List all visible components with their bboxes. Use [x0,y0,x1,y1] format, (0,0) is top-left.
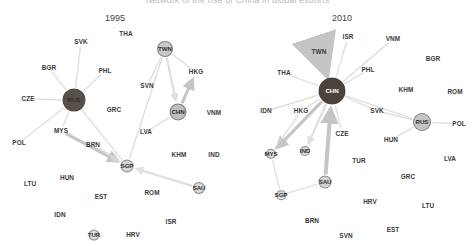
country-label-CZE: CZE [335,131,348,137]
network-node-SAU[interactable]: SAU [193,182,205,194]
edge-RUS-to-POL [432,123,454,124]
edge-TWN-to-HKG [172,54,191,68]
country-label-ROM: ROM [144,190,159,196]
edges-layer-2010 [238,0,475,246]
edge-CZE-to-CHN [335,105,340,129]
country-label-KHM: KHM [399,87,414,93]
panel-2010: 2010 ISRVNMTWNBGRTHAPHLKHMROMIDNHKGSVKCZ… [238,0,475,246]
edge-RUS-to-SGP [82,110,122,160]
node-label-TWN: TWN [158,46,172,52]
node-label-SGP: SGP [121,163,134,169]
edge-CHN-to-LVA [150,117,169,129]
country-label-TUR: TUR [352,158,365,164]
network-node-CHN[interactable]: CHN [170,104,187,121]
country-label-POL: POL [12,140,25,146]
country-label-ISR: ISR [343,34,354,40]
edge-ISR-to-CHN [336,42,346,77]
country-label-SVK: SVK [74,39,87,45]
network-node-RUS[interactable]: RUS [413,113,431,131]
edge-RUS-to-MYS [63,112,69,126]
country-label-HRV: HRV [126,232,140,238]
edge-TWN-to-CHN [321,57,326,71]
country-label-CZE: CZE [21,96,34,102]
country-label-PHL: PHL [98,68,111,74]
country-label-THA: THA [277,70,290,76]
edge-SVK-to-RUS [382,112,412,119]
country-label-VNM: VNM [207,110,222,116]
edge-HKG-to-MYS [275,115,298,148]
country-label-LVA: LVA [140,129,152,135]
country-label-IDN: IDN [54,212,65,218]
country-label-IND: IND [208,152,219,158]
network-node-SAU[interactable]: SAU [319,176,332,189]
country-label-HKG: HKG [189,69,204,75]
edge-CHN-to-IND [308,104,326,143]
node-label-MYS: MYS [264,151,277,157]
country-label-HUN: HUN [60,175,74,181]
country-label-LTU: LTU [24,181,36,187]
network-node-TWN[interactable]: TWN [157,41,173,57]
country-label-BGR: BGR [426,56,441,62]
country-label-TWN: TWN [312,49,327,55]
edge-BRN-to-SGP [97,148,118,161]
edge-PHL-to-CHN [345,73,364,84]
panel-year-label-1995: 1995 [105,13,125,23]
network-node-CHN[interactable]: CHN [319,78,346,105]
network-node-IND[interactable]: IND [300,146,310,156]
country-label-LTU: LTU [422,203,434,209]
edge-RUS-to-PHL [83,75,101,92]
node-label-SAU: SAU [193,185,206,191]
country-label-EST: EST [387,227,400,233]
edge-TWN-to-CHN [167,58,176,100]
country-label-VNM: VNM [386,36,401,42]
node-label-SAU: SAU [319,179,332,185]
edge-RUS-to-BGR [52,72,66,90]
country-label-ISR: ISR [166,219,177,225]
country-label-GRC: GRC [401,174,416,180]
country-label-SVN: SVN [140,83,153,89]
node-label-CHN: CHN [325,88,338,94]
edge-TWN-to-SVN [149,57,161,81]
country-label-BRN: BRN [305,218,319,224]
edge-RUS-to-HUN [396,127,414,137]
country-label-POL: POL [452,121,465,127]
country-label-MYS: MYS [54,128,68,134]
network-node-MYS[interactable]: MYS [266,149,276,159]
panel-year-label-2010: 2010 [332,13,352,23]
node-label-TUR: TUR [88,232,100,238]
country-label-PHL: PHL [361,67,374,73]
country-label-SVK: SVK [370,108,383,114]
country-label-SVN: SVN [339,233,352,239]
network-node-SGP[interactable]: SGP [276,190,286,200]
edge-CHN-to-HKG [182,79,193,103]
country-label-IDN: IDN [260,108,271,114]
node-label-IND: IND [300,148,310,154]
node-label-RUS: RUS [68,97,81,103]
country-label-BRN: BRN [86,142,100,148]
network-node-TUR[interactable]: TUR [89,230,100,241]
country-label-GRC: GRC [107,107,122,113]
country-label-THA: THA [119,31,132,37]
country-label-LVA: LVA [444,156,456,162]
country-label-HKG: HKG [294,108,309,114]
edge-RUS-to-SVK [76,47,81,87]
country-label-EST: EST [95,194,108,200]
edge-RUS-to-POL [23,108,64,140]
node-label-CHN: CHN [171,109,184,115]
edge-SAU-to-SGP [136,169,192,186]
country-label-ROM: ROM [447,89,462,95]
network-node-SGP[interactable]: SGP [121,160,134,173]
country-label-KHM: KHM [172,152,187,158]
country-label-HRV: HRV [363,199,377,205]
network-node-RUS[interactable]: RUS [63,89,86,112]
edge-SGP-to-TWN [129,58,162,159]
edge-CZE-to-RUS [33,99,61,100]
node-label-SGP: SGP [275,192,288,198]
country-label-BGR: BGR [42,65,57,71]
panel-1995: 1995 SVKTHABGRPHLHKGSVNCZEGRCVNMLVAMYSPO… [0,0,238,246]
node-label-RUS: RUS [416,119,429,125]
edge-VNM-to-CHN [343,42,389,81]
country-label-HUN: HUN [384,137,398,143]
edge-THA-to-CHN [289,75,318,86]
edge-SAU-to-SGP [287,184,318,193]
